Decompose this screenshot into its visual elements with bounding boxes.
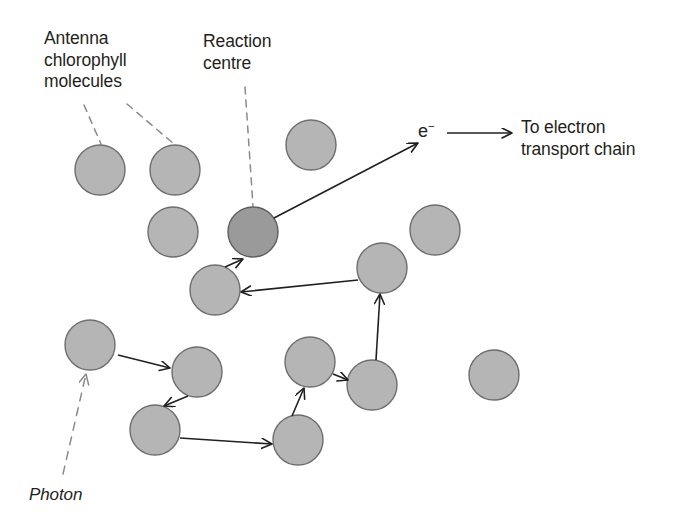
leader-reaction — [245, 87, 253, 206]
transfer-4 — [292, 388, 304, 416]
transfer-1 — [118, 355, 170, 368]
antenna-chlorophyll-molecule — [172, 347, 222, 397]
electron-symbol-label: e− — [418, 121, 435, 141]
transfer-5 — [333, 374, 348, 380]
antenna-chlorophyll-molecule — [469, 350, 519, 400]
electron-letter: e — [418, 121, 428, 141]
antenna-chlorophyll-label: Antenna chlorophyll molecules — [44, 28, 127, 93]
antenna-chlorophyll-molecule — [75, 145, 125, 195]
transfer-7 — [241, 280, 358, 292]
photon-label: Photon — [29, 484, 82, 506]
antenna-chlorophyll-molecule — [285, 337, 335, 387]
electron-charge-sign: − — [428, 120, 435, 132]
diagram-canvas: Antenna chlorophyll molecules Reaction c… — [0, 0, 679, 518]
antenna-chlorophyll-molecule — [273, 415, 323, 465]
electron-transport-chain-label: To electron transport chain — [521, 117, 635, 160]
transfer-8 — [225, 259, 243, 267]
antenna-chlorophyll-molecule — [150, 145, 200, 195]
antenna-chlorophyll-molecule — [190, 265, 240, 315]
chlorophyll-molecules-group — [65, 120, 519, 465]
reaction-centre-molecule — [228, 207, 278, 257]
antenna-chlorophyll-molecule — [410, 205, 460, 255]
antenna-chlorophyll-molecule — [357, 243, 407, 293]
transfer-2 — [164, 396, 188, 406]
photon-arrow-group — [63, 374, 86, 474]
antenna-chlorophyll-molecule — [347, 360, 397, 410]
antenna-chlorophyll-molecule — [148, 207, 198, 257]
antenna-chlorophyll-molecule — [65, 320, 115, 370]
reaction-centre-label: Reaction centre — [203, 31, 271, 74]
photon-arrow — [63, 374, 86, 474]
antenna-chlorophyll-molecule — [286, 120, 336, 170]
transfer-6 — [376, 294, 380, 360]
transfer-3 — [180, 438, 272, 444]
leader-antenna-1 — [84, 105, 101, 144]
leader-antenna-2 — [127, 104, 174, 144]
antenna-chlorophyll-molecule — [130, 405, 180, 455]
